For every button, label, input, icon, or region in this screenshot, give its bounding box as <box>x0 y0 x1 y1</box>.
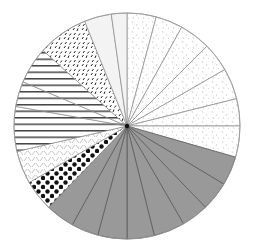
pie-chart <box>0 0 253 249</box>
pie-center <box>125 124 129 128</box>
